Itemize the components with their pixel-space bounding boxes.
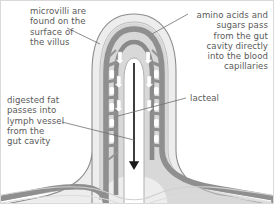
label-digested-fat: digested fat passes into lymph vessel fr… — [7, 95, 64, 146]
villus-diagram-canvas: microvilli are found on the surface of t… — [0, 0, 274, 204]
label-lacteal: lacteal — [190, 93, 219, 103]
label-amino-acids: amino acids and sugars pass from the gut… — [197, 10, 268, 72]
label-microvilli: microvilli are found on the surface of t… — [30, 6, 86, 47]
